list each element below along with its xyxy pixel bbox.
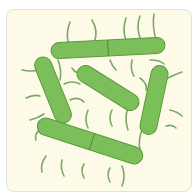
- bacterium-right: [138, 64, 169, 136]
- bacteria-illustration: [0, 0, 196, 196]
- bacterium-bottom: [35, 116, 145, 166]
- bacterium-left: [32, 54, 74, 125]
- bacteria-cells: [32, 37, 170, 166]
